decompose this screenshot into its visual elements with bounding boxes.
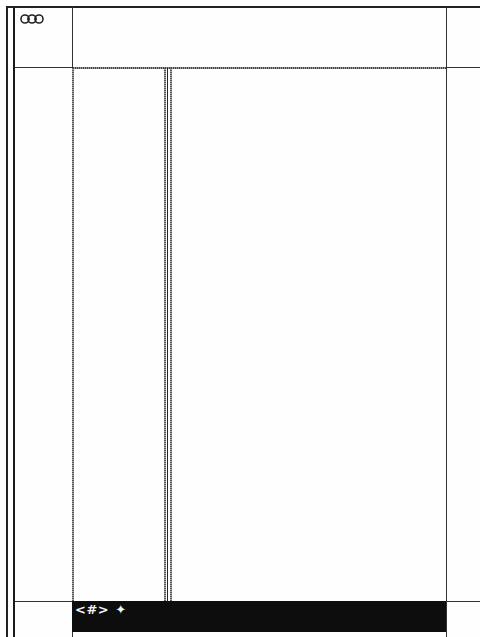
frameset-page: <#> ✦ [0, 0, 480, 637]
pane-splitter-b[interactable] [167, 68, 168, 601]
anchor-link[interactable]: <#> [75, 603, 109, 617]
pane-splitter-a[interactable] [164, 68, 166, 601]
footer-divider-left [15, 601, 72, 602]
footer-divider-right [446, 601, 480, 602]
header-divider-left [15, 67, 72, 68]
right-margin-frame [447, 69, 480, 601]
nav-left-frame [15, 69, 72, 601]
outer-border-left [6, 6, 8, 637]
content-pane [172, 69, 446, 601]
list-pane [74, 69, 164, 601]
header-right-frame [447, 8, 480, 67]
header-left-frame [15, 8, 72, 67]
header-main-frame [73, 8, 446, 67]
star-icon[interactable]: ✦ [115, 603, 126, 617]
header-divider-right [446, 67, 480, 68]
bottom-navigation-bar: <#> ✦ [72, 601, 446, 632]
